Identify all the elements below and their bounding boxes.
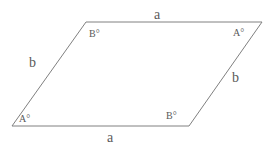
side-label-a-bottom: a <box>107 131 113 145</box>
side-label-a-top: a <box>154 8 160 22</box>
angle-label-a-top-right: A° <box>233 28 244 38</box>
side-label-b-left: b <box>29 56 36 70</box>
side-label-b-right: b <box>232 71 239 85</box>
angle-label-b-top-left: B° <box>89 29 100 39</box>
parallelogram-diagram: a a b b B° A° A° B° <box>0 0 275 148</box>
angle-label-a-bottom-left: A° <box>19 114 30 124</box>
parallelogram-outline <box>12 22 262 126</box>
angle-label-b-bottom-right: B° <box>166 111 177 121</box>
